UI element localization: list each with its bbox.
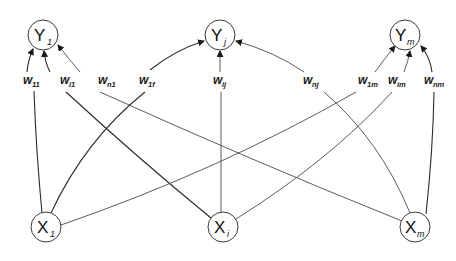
weight-wnj-subscript: nj xyxy=(312,80,320,89)
weight-wi1: w i1 xyxy=(60,73,75,89)
weight-wn1: w n1 xyxy=(98,73,116,89)
arrow-w1m-ym xyxy=(375,46,395,72)
input-nodes: X 1 X i X m xyxy=(31,212,430,242)
weight-w11-subscript: 11 xyxy=(32,80,40,89)
weight-wn1-subscript: n1 xyxy=(107,80,116,89)
node-xm: X m xyxy=(400,212,430,242)
edge-x1-w11 xyxy=(34,91,42,213)
node-ym-label: Y xyxy=(395,26,406,45)
node-ym: Y m xyxy=(390,20,420,50)
node-xm-label: X xyxy=(405,218,416,237)
node-x1-label: X xyxy=(37,218,48,237)
arrow-wnj-yj xyxy=(236,41,304,72)
node-x1-subscript: 1 xyxy=(50,229,55,239)
output-nodes: Y 1 Y j Y m xyxy=(28,20,420,50)
arrow-wim-ym xyxy=(404,51,410,72)
weight-wnm-subscript: nm xyxy=(433,80,445,89)
weight-w1j-subscript: 1f xyxy=(148,80,156,89)
arrow-wnm-ym xyxy=(421,46,432,72)
node-y1-subscript: 1 xyxy=(47,37,52,47)
edge-x1-w1j xyxy=(51,92,145,213)
node-ym-subscript: m xyxy=(407,37,415,47)
node-yj: Y j xyxy=(205,20,235,50)
weight-labels: w 11 w i1 w n1 w 1f w ij w nj w 1m w im xyxy=(23,73,445,89)
weight-w1m-subscript: 1m xyxy=(367,80,378,89)
weight-wnj: w nj xyxy=(303,73,320,89)
node-yj-label: Y xyxy=(211,26,222,45)
weight-w11: w 11 xyxy=(23,73,40,89)
node-xi: X i xyxy=(208,212,238,242)
node-xm-subscript: m xyxy=(417,229,425,239)
edge-x1-w1m xyxy=(61,92,356,225)
weight-wij: w ij xyxy=(213,73,227,89)
weight-wi1-subscript: i1 xyxy=(69,80,75,89)
arrow-w1j-yj xyxy=(150,41,204,70)
weight-w1j: w 1f xyxy=(139,73,156,89)
edges-lower xyxy=(34,91,434,225)
node-y1: Y 1 xyxy=(28,20,58,50)
weight-wim: w im xyxy=(388,73,406,89)
arrow-wn1-y1 xyxy=(58,45,80,72)
node-y1-label: Y xyxy=(34,26,45,45)
arrow-wi1-y1 xyxy=(44,51,50,72)
network-diagram: Y 1 Y j Y m X 1 X i X m xyxy=(0,0,456,261)
weight-wij-subscript: ij xyxy=(222,80,227,89)
weight-wim-subscript: im xyxy=(397,80,406,89)
edge-xi-wim xyxy=(236,92,392,219)
arrow-w11-y1 xyxy=(27,49,33,72)
node-xi-label: X xyxy=(214,218,225,237)
edge-xm-wnm xyxy=(426,92,434,214)
weight-wnm: w nm xyxy=(424,73,445,89)
node-x1: X 1 xyxy=(31,212,61,242)
edge-xm-wn1 xyxy=(100,92,402,221)
weight-w1m: w 1m xyxy=(358,73,378,89)
edge-xi-wi1 xyxy=(66,92,211,218)
